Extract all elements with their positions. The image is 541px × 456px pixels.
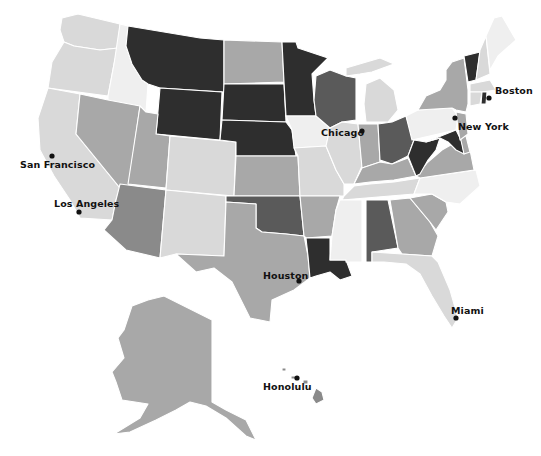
city-label-miami: Miami xyxy=(451,305,484,316)
state-ri[interactable] xyxy=(481,92,487,104)
state-hi-kauai[interactable] xyxy=(282,368,286,371)
state-ma[interactable] xyxy=(470,80,496,92)
state-wy[interactable] xyxy=(156,88,222,140)
state-ny[interactable] xyxy=(418,58,468,112)
city-dot-san-francisco[interactable] xyxy=(49,153,54,158)
state-wi[interactable] xyxy=(314,70,356,128)
city-dot-los-angeles[interactable] xyxy=(76,209,81,214)
city-dot-boston[interactable] xyxy=(486,95,491,100)
city-label-san-francisco: San Francisco xyxy=(20,159,95,170)
city-label-houston: Houston xyxy=(263,270,308,281)
state-or[interactable] xyxy=(48,42,118,96)
city-label-honolulu: Honolulu xyxy=(263,381,312,392)
state-hi-big[interactable] xyxy=(312,388,324,404)
state-co[interactable] xyxy=(166,136,236,196)
city-label-boston: Boston xyxy=(495,85,533,96)
city-dot-new-york[interactable] xyxy=(452,115,457,120)
state-nd[interactable] xyxy=(224,40,284,84)
state-sd[interactable] xyxy=(222,84,286,122)
city-label-new-york: New York xyxy=(458,121,509,132)
state-mi-lower[interactable] xyxy=(364,78,398,122)
state-fl[interactable] xyxy=(372,252,458,328)
city-label-chicago: Chicago xyxy=(321,127,364,138)
state-mi[interactable] xyxy=(346,58,394,76)
city-dot-honolulu[interactable] xyxy=(294,375,299,380)
city-dot-miami[interactable] xyxy=(453,315,458,320)
state-nm[interactable] xyxy=(160,190,226,258)
state-ak[interactable] xyxy=(112,296,256,440)
city-label-los-angeles: Los Angeles xyxy=(54,198,119,209)
state-me[interactable] xyxy=(486,16,516,70)
state-ct[interactable] xyxy=(470,92,482,106)
state-ks[interactable] xyxy=(234,156,300,196)
